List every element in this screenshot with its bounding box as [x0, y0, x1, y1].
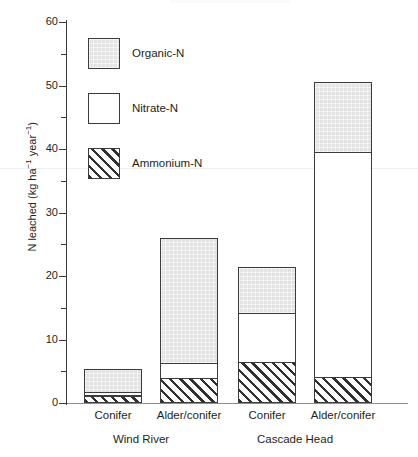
y-tick-label-60: 60: [32, 16, 58, 27]
bar-segment-ammonium: [238, 362, 296, 403]
y-tick-minor-15: [61, 308, 67, 309]
x-axis-line: [66, 403, 408, 404]
legend-label-nitrate: Nitrate-N: [132, 102, 178, 114]
y-tick-minor-45: [61, 117, 67, 118]
scan-artifact-top: [170, 0, 290, 3]
y-tick-30: [59, 213, 67, 214]
bar-segment-organic: [238, 267, 296, 314]
legend-swatch-nitrate: [88, 93, 120, 124]
y-tick-minor-35: [61, 181, 67, 182]
legend-label-ammonium: Ammonium-N: [132, 157, 202, 169]
bar-segment-nitrate: [314, 152, 372, 378]
y-tick-minor-5: [61, 371, 67, 372]
y-tick-10: [59, 340, 67, 341]
bar-segment-organic: [314, 82, 372, 153]
y-axis-title-mid: year: [26, 135, 38, 159]
bar-segment-ammonium: [84, 396, 142, 403]
y-tick-50: [59, 86, 67, 87]
y-tick-40: [59, 149, 67, 150]
bar-segment-organic: [160, 238, 218, 364]
bar-segment-ammonium: [314, 377, 372, 403]
chart-figure: 60 50 40 30 20 10 0 N leached (kg ha−1 y…: [0, 0, 418, 457]
y-tick-minor-55: [61, 54, 67, 55]
x-label-alder-conifer-cascade-head: Alder/conifer: [295, 409, 391, 421]
y-tick-label-10: 10: [32, 334, 58, 345]
bar-segment-nitrate: [160, 363, 218, 379]
y-axis-title: N leached (kg ha−1 year−1): [24, 82, 38, 292]
y-tick-minor-25: [61, 244, 67, 245]
y-tick-label-0: 0: [32, 397, 58, 408]
y-tick-0: [59, 403, 67, 404]
bar-segment-ammonium: [160, 378, 218, 403]
group-label-cascade-head: Cascade Head: [220, 433, 370, 445]
y-tick-20: [59, 276, 67, 277]
legend-swatch-ammonium: [88, 148, 120, 179]
bar-segment-nitrate: [238, 313, 296, 363]
y-axis-title-sup2: −1: [24, 126, 33, 135]
y-axis-title-sup1: −1: [24, 159, 33, 168]
legend-swatch-organic: [88, 38, 120, 69]
y-axis-title-main: N leached (kg ha: [26, 168, 38, 251]
y-axis-title-end: ): [26, 122, 38, 126]
legend-label-organic: Organic-N: [132, 47, 184, 59]
group-label-wind-river: Wind River: [66, 433, 216, 445]
y-tick-60: [59, 22, 67, 23]
